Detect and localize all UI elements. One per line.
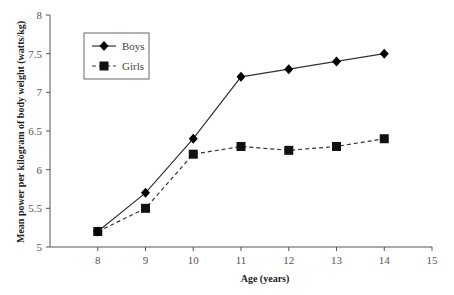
legend-label-boys: Boys — [122, 40, 145, 52]
y-axis-title: Mean power per kilogram of body weight (… — [15, 21, 27, 243]
square-marker — [100, 62, 109, 71]
square-marker — [189, 150, 198, 159]
square-marker — [284, 146, 293, 155]
y-tick-label: 5.5 — [28, 202, 42, 214]
diamond-marker — [332, 56, 341, 66]
y-tick-label: 5 — [37, 241, 43, 253]
y-tick-label: 7 — [37, 86, 43, 98]
x-tick-label: 11 — [236, 254, 247, 266]
x-tick-label: 8 — [95, 254, 101, 266]
y-tick-label: 7.5 — [28, 48, 42, 60]
diamond-marker — [284, 64, 293, 74]
series-girls — [93, 134, 389, 236]
x-axis-title: Age (years) — [241, 273, 290, 285]
y-tick-label: 6.5 — [28, 125, 42, 137]
x-tick-label: 9 — [143, 254, 149, 266]
series-line — [98, 139, 385, 232]
square-marker — [237, 142, 246, 151]
x-tick-label: 15 — [427, 254, 439, 266]
square-marker — [332, 142, 341, 151]
square-marker — [380, 134, 389, 143]
y-tick-label: 8 — [37, 9, 43, 21]
y-tick-label: 6 — [37, 164, 43, 176]
square-marker — [141, 204, 150, 213]
line-chart: 55.566.577.5889101112131415 BoysGirls Ag… — [0, 0, 454, 295]
x-tick-label: 14 — [379, 254, 391, 266]
x-tick-label: 13 — [331, 254, 343, 266]
diamond-marker — [380, 49, 389, 59]
x-tick-label: 12 — [283, 254, 294, 266]
legend-label-girls: Girls — [122, 60, 144, 72]
x-tick-label: 10 — [188, 254, 200, 266]
legend: BoysGirls — [84, 33, 149, 79]
